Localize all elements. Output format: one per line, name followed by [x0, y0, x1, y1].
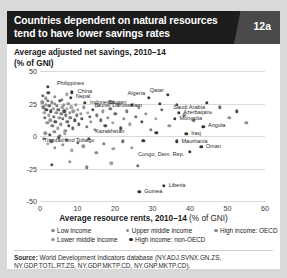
chart-legend: Low incomeUpper middle incomeHigh income… [51, 227, 281, 245]
x-axis-title-text: Average resource rents, 2010–14 [59, 214, 189, 223]
x-axis-tick-label: 30 [149, 204, 157, 213]
chart-subtitle: Average adjusted net savings, 2010–14 [14, 48, 166, 57]
data-point [149, 128, 152, 131]
source-divider [14, 250, 273, 251]
source-note: Source: World Development Indicators dat… [14, 254, 276, 271]
data-point [106, 116, 109, 119]
legend-marker-icon [51, 229, 55, 233]
x-axis-tick-label: 60 [261, 204, 269, 213]
data-point [111, 121, 114, 124]
data-point-label: Qatar [150, 87, 164, 93]
data-point [104, 124, 107, 127]
data-point-labeled [138, 190, 141, 193]
data-point-label: Kazakhstan [95, 128, 124, 134]
legend-marker-icon [126, 229, 130, 233]
data-point [54, 120, 57, 123]
legend-item[interactable]: Lower middle income [51, 236, 129, 243]
data-point [88, 115, 91, 118]
data-point [45, 121, 48, 124]
data-point-label: Oman [206, 143, 221, 149]
data-point [53, 95, 56, 98]
grid-line [40, 169, 265, 170]
data-point-labeled [158, 102, 161, 105]
data-point [228, 116, 231, 119]
data-point-label: Iraq [191, 130, 201, 136]
data-point [48, 119, 51, 122]
data-point [62, 103, 65, 106]
data-point-label: Nepal [76, 93, 91, 99]
data-point [65, 107, 68, 110]
data-point [125, 110, 128, 113]
data-point [81, 145, 84, 148]
legend-label: Lower middle income [57, 236, 117, 243]
data-point [59, 123, 62, 126]
data-point-label: Congo, Dem. Rep. [138, 151, 184, 157]
data-point [66, 102, 69, 105]
data-point [47, 91, 50, 94]
data-point [114, 112, 117, 115]
data-point [55, 104, 58, 107]
data-point [69, 116, 72, 119]
data-point [64, 113, 67, 116]
data-point [86, 111, 89, 114]
source-label: Source: [14, 254, 38, 261]
data-point [52, 115, 55, 118]
data-point [235, 110, 238, 113]
legend-row: Low incomeUpper middle incomeHigh income… [51, 227, 281, 234]
data-point [73, 119, 76, 122]
data-point [65, 93, 68, 96]
data-point [53, 146, 56, 149]
data-point-label: Mongolia [180, 115, 203, 121]
y-axis-tick-label: 0 [33, 132, 37, 141]
data-point [99, 119, 102, 122]
x-axis-tick-label: 40 [186, 204, 194, 213]
data-point-labeled [200, 145, 203, 148]
data-point [144, 112, 147, 115]
data-point [68, 160, 71, 163]
x-axis-tick-label: 50 [224, 204, 232, 213]
data-point [95, 113, 98, 116]
data-point-label: Algeria [128, 90, 145, 96]
data-point-label: Trinidad and Tobago [44, 137, 95, 143]
y-axis-tick-label: 50 [29, 67, 37, 76]
data-point [57, 108, 60, 111]
legend-item[interactable]: Upper middle income [126, 227, 214, 234]
legend-item[interactable]: Low income [51, 227, 126, 234]
data-point-labeled [201, 125, 204, 128]
data-point [89, 120, 92, 123]
data-point-labeled [175, 139, 178, 142]
data-point [95, 151, 98, 154]
data-point [77, 123, 80, 126]
grid-line [40, 201, 265, 202]
data-point [61, 143, 64, 146]
data-point [111, 147, 114, 150]
legend-item[interactable]: High income: OECD [214, 227, 281, 234]
data-point [140, 120, 143, 123]
data-point [70, 149, 73, 152]
x-axis-tick-label: 0 [38, 204, 42, 213]
legend-item[interactable]: High income: non-OECD [129, 236, 221, 243]
data-point-label: Angola [208, 122, 225, 128]
y-axis-tick-label: -50 [27, 197, 37, 206]
data-point [66, 120, 69, 123]
grid-line [40, 71, 265, 72]
data-point-labeled [141, 139, 144, 142]
scatter-plot-area: 50250-25-500102030405060PhilippinesChina… [40, 71, 265, 201]
figure-panel: Countries dependent on natural resources… [7, 11, 280, 269]
data-point [51, 107, 54, 110]
data-point-label: Azerbaijan [183, 109, 209, 115]
data-point-labeled [177, 111, 180, 114]
data-point [63, 132, 66, 135]
data-point-labeled [46, 85, 49, 88]
data-point [76, 108, 79, 111]
data-point-labeled [155, 131, 158, 134]
data-point [136, 164, 139, 167]
data-point-labeled [69, 96, 72, 99]
legend-label: Upper middle income [132, 227, 192, 234]
data-point [130, 146, 133, 149]
data-point [60, 98, 63, 101]
y-axis-tick-label: -25 [27, 164, 37, 173]
legend-marker-icon [129, 238, 133, 242]
data-point [42, 111, 45, 114]
data-point [63, 110, 66, 113]
